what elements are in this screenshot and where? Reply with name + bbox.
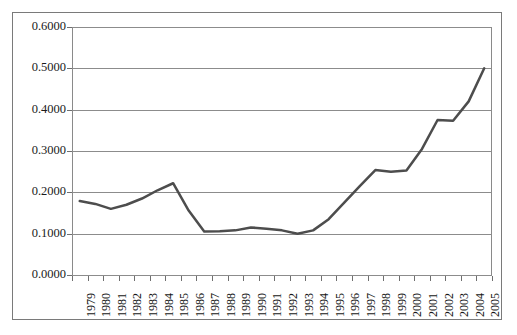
x-axis-label-1989: 1989 (240, 293, 252, 317)
x-axis-label-1980: 1980 (100, 293, 112, 317)
x-axis-label-2000: 2000 (411, 293, 423, 317)
x-tick-mark (181, 276, 182, 281)
x-axis-label-2005: 2005 (489, 293, 501, 317)
x-axis-label-1997: 1997 (365, 293, 377, 317)
x-tick-mark (445, 276, 446, 281)
x-axis-label-1992: 1992 (287, 293, 299, 317)
x-axis-label-1988: 1988 (225, 293, 237, 317)
y-axis-label: 0.3000 (4, 144, 66, 157)
x-tick-mark (305, 276, 306, 281)
x-axis-label-1983: 1983 (147, 293, 159, 317)
x-tick-mark (119, 276, 120, 281)
x-tick-mark (150, 276, 151, 281)
x-tick-mark (383, 276, 384, 281)
x-tick-mark (290, 276, 291, 281)
chart-container: 0.00000.10000.20000.30000.40000.50000.60… (0, 0, 517, 335)
y-axis-label: 0.2000 (4, 185, 66, 198)
x-tick-mark (336, 276, 337, 281)
x-tick-mark (430, 276, 431, 281)
x-axis-label-1993: 1993 (303, 293, 315, 317)
x-tick-mark (259, 276, 260, 281)
x-axis-label-1995: 1995 (334, 293, 346, 317)
x-tick-mark (461, 276, 462, 281)
x-axis-label-1994: 1994 (318, 293, 330, 317)
x-axis-label-1990: 1990 (256, 293, 268, 317)
x-axis-label-1986: 1986 (194, 293, 206, 317)
y-axis-label: 0.0000 (4, 268, 66, 281)
x-tick-mark (243, 276, 244, 281)
y-axis-label: 0.6000 (4, 20, 66, 33)
y-axis-label: 0.1000 (4, 227, 66, 240)
x-tick-mark (476, 276, 477, 281)
x-tick-mark (399, 276, 400, 281)
x-tick-mark (274, 276, 275, 281)
x-tick-mark (88, 276, 89, 281)
x-tick-mark (228, 276, 229, 281)
x-tick-mark (212, 276, 213, 281)
x-axis-label-2001: 2001 (427, 293, 439, 317)
x-tick-mark (492, 276, 493, 281)
x-tick-mark (414, 276, 415, 281)
x-axis-label-1981: 1981 (116, 293, 128, 317)
y-axis-label: 0.5000 (4, 61, 66, 74)
y-axis-label: 0.4000 (4, 103, 66, 116)
x-axis-label-2004: 2004 (474, 293, 486, 317)
x-axis-label-1999: 1999 (396, 293, 408, 317)
x-tick-mark (72, 276, 73, 281)
x-tick-mark (321, 276, 322, 281)
x-axis-label-1984: 1984 (163, 293, 175, 317)
x-tick-mark (103, 276, 104, 281)
y-axis-labels-group: 0.00000.10000.20000.30000.40000.50000.60… (0, 0, 66, 335)
x-tick-mark (134, 276, 135, 281)
x-tick-mark (368, 276, 369, 281)
x-axis-label-1985: 1985 (178, 293, 190, 317)
x-tick-mark (165, 276, 166, 281)
x-tick-mark (196, 276, 197, 281)
x-axis-label-1982: 1982 (131, 293, 143, 317)
x-axis-label-2002: 2002 (443, 293, 455, 317)
x-tick-mark (352, 276, 353, 281)
x-axis-label-2003: 2003 (458, 293, 470, 317)
x-axis-label-1987: 1987 (209, 293, 221, 317)
x-axis-label-1979: 1979 (85, 293, 97, 317)
data-series-line (72, 27, 492, 275)
x-axis-label-1991: 1991 (271, 293, 283, 317)
x-axis-label-1996: 1996 (349, 293, 361, 317)
x-axis-label-1998: 1998 (380, 293, 392, 317)
